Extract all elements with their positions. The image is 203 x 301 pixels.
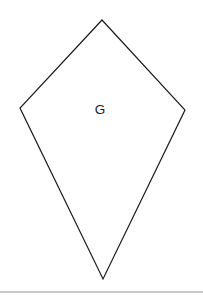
kite-shape [20, 20, 185, 279]
footer-divider [0, 291, 203, 293]
shape-figure-canvas: G [0, 0, 203, 301]
shape-label-g: G [95, 102, 106, 117]
